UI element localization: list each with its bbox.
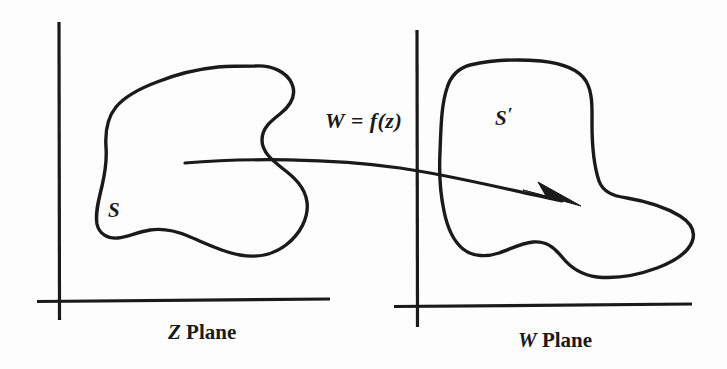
mapping-arrow [185, 160, 581, 206]
region-s-prime-label: S′ [495, 108, 512, 129]
z-plane-horizontal-axis [37, 299, 330, 302]
prime-mark: ′ [508, 105, 513, 125]
z-plane-symbol: Z [168, 320, 181, 344]
figure-canvas [0, 0, 727, 369]
mapping-arrow-label: W = f(z) [325, 110, 402, 132]
conformal-mapping-figure: S S′ W = f(z) Z Plane W Plane [0, 0, 727, 369]
region-s-prime-outline [440, 60, 694, 277]
w-plane-vertical-axis [417, 30, 418, 327]
w-plane-horizontal-axis [394, 304, 692, 307]
w-plane-symbol: W [518, 328, 537, 352]
z-plane-vertical-axis [59, 22, 60, 320]
z-plane-label: Z Plane [168, 322, 236, 343]
w-plane-label: W Plane [518, 330, 592, 351]
region-s-label: S [108, 200, 120, 221]
mapping-arrow-shaft [185, 160, 562, 201]
